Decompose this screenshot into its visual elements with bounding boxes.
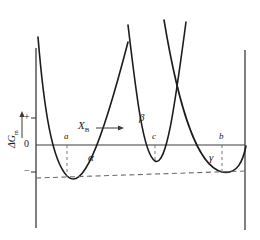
- y-axis-title-main: ΔG: [6, 135, 17, 148]
- free-energy-composition-figure: [0, 0, 260, 240]
- curve-label-gamma: γ: [209, 152, 213, 163]
- curve-label-alpha: α: [88, 152, 94, 163]
- y-tick-plus-label: +: [24, 112, 30, 122]
- y-tick-minus-label: −: [24, 166, 30, 176]
- curve-beta: [128, 22, 186, 161]
- y-axis-title: ΔGm: [6, 88, 19, 148]
- point-label-a: a: [64, 132, 69, 141]
- x-axis-title-main: X: [78, 119, 85, 131]
- x-axis-title-subscript: B: [85, 126, 90, 133]
- point-label-c: c: [152, 132, 156, 141]
- y-tick-zero-label: 0: [24, 139, 29, 149]
- curve-label-beta: β: [139, 112, 144, 123]
- x-axis-arrow: [96, 125, 124, 130]
- y-axis-title-subscript: m: [12, 130, 19, 135]
- point-label-b: b: [219, 132, 224, 141]
- curve-alpha: [38, 37, 128, 179]
- x-axis-title: XB: [78, 120, 89, 134]
